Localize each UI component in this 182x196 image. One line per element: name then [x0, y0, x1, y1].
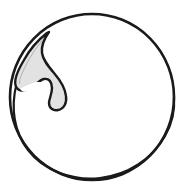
figure-canvas: Spherical cell outline with internal hoo…: [0, 0, 182, 196]
line-drawing-svg: [0, 0, 182, 196]
